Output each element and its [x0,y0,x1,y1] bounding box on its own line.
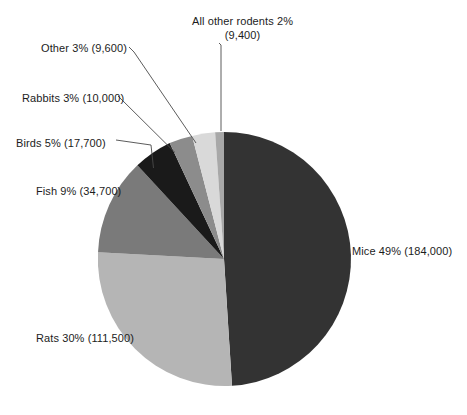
pie-label-all-other-rodents-line1: All other rodents 2% [192,14,293,28]
pie-slice-rats[interactable] [98,252,232,386]
pie-slice-mice[interactable] [224,132,351,386]
pie-label-all-other-rodents: All other rodents 2% (9,400) [192,14,293,42]
pie-label-birds: Birds 5% (17,700) [16,136,106,150]
pie-label-rats: Rats 30% (111,500) [36,331,134,345]
pie-label-fish: Fish 9% (34,700) [36,184,121,198]
pie-label-other: Other 3% (9,600) [41,41,127,55]
pie-label-all-other-rodents-line2: (9,400) [192,28,293,42]
leader-line-rodents [219,43,221,131]
pie-chart-canvas [0,0,467,415]
leader-line-other [129,47,196,143]
pie-chart-figure: Mice 49% (184,000) Rats 30% (111,500) Fi… [0,0,467,415]
pie-label-rabbits: Rabbits 3% (10,000) [22,91,124,105]
pie-label-mice: Mice 49% (184,000) [352,244,452,258]
pie-slices [98,132,351,386]
